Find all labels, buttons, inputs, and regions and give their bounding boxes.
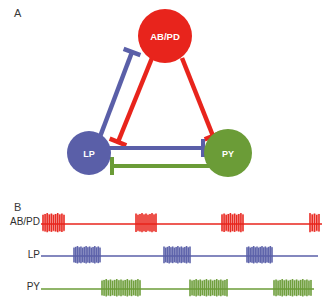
burst-envelope	[309, 214, 319, 232]
node-abpd[interactable]: AB/PD	[138, 9, 192, 63]
burst	[246, 246, 272, 264]
burst-envelope	[189, 280, 227, 296]
connection-abpd-to-py	[182, 58, 221, 139]
burst	[309, 213, 319, 232]
circuit-and-raster-svg: AB/PDLPPY	[0, 0, 329, 306]
node-abpd-label: AB/PD	[150, 31, 180, 42]
burst-envelope	[101, 280, 140, 296]
burst-envelope	[246, 247, 272, 263]
figure-container: A B AB/PD LP PY AB/PDLPPY	[0, 0, 329, 306]
connection-abpd-to-py-shaft	[182, 58, 213, 136]
burst	[73, 246, 100, 264]
burst	[273, 279, 311, 297]
burst	[135, 213, 156, 232]
trace-lp	[41, 246, 318, 264]
node-py[interactable]: PY	[204, 129, 252, 177]
burst	[163, 246, 190, 264]
trace-ab-pd	[41, 213, 322, 232]
nodes-layer: AB/PDLPPY	[67, 9, 252, 177]
node-lp-label: LP	[83, 149, 95, 159]
connection-py-to-lp	[112, 157, 218, 175]
burst	[101, 279, 140, 297]
node-lp[interactable]: LP	[67, 131, 111, 175]
node-py-label: PY	[222, 149, 234, 159]
connection-abpd-to-lp	[110, 58, 152, 145]
burst	[221, 213, 243, 232]
connections-layer	[98, 49, 221, 175]
traces-layer	[41, 213, 322, 297]
burst-envelope	[163, 247, 190, 263]
trace-py	[41, 279, 314, 297]
burst-envelope	[73, 247, 100, 263]
burst	[189, 279, 227, 297]
burst-envelope	[273, 280, 311, 296]
connection-abpd-to-lp-terminal-bar	[110, 139, 127, 146]
burst-envelope	[42, 214, 64, 232]
burst-envelope	[135, 214, 156, 232]
connection-lp-to-abpd-terminal-bar	[124, 49, 141, 55]
burst-envelope	[221, 214, 243, 232]
connection-lp-to-abpd	[98, 49, 140, 142]
burst	[42, 213, 64, 232]
connection-lp-to-abpd-shaft	[98, 52, 132, 142]
